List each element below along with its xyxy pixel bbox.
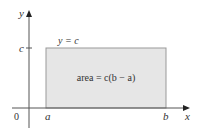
origin-label: 0: [14, 111, 19, 122]
diagram-canvas: y c y = c area = c(b − a) 0 a b x: [0, 0, 199, 130]
area-label: area = c(b − a): [77, 72, 135, 84]
x-tick-a-label: a: [45, 110, 51, 122]
y-axis-label: y: [18, 7, 24, 19]
x-axis-label: x: [184, 110, 190, 122]
y-tick-label: c: [19, 42, 24, 54]
x-tick-b-label: b: [163, 110, 169, 122]
line-label: y = c: [57, 35, 79, 46]
y-axis-arrow-icon: [26, 10, 32, 17]
